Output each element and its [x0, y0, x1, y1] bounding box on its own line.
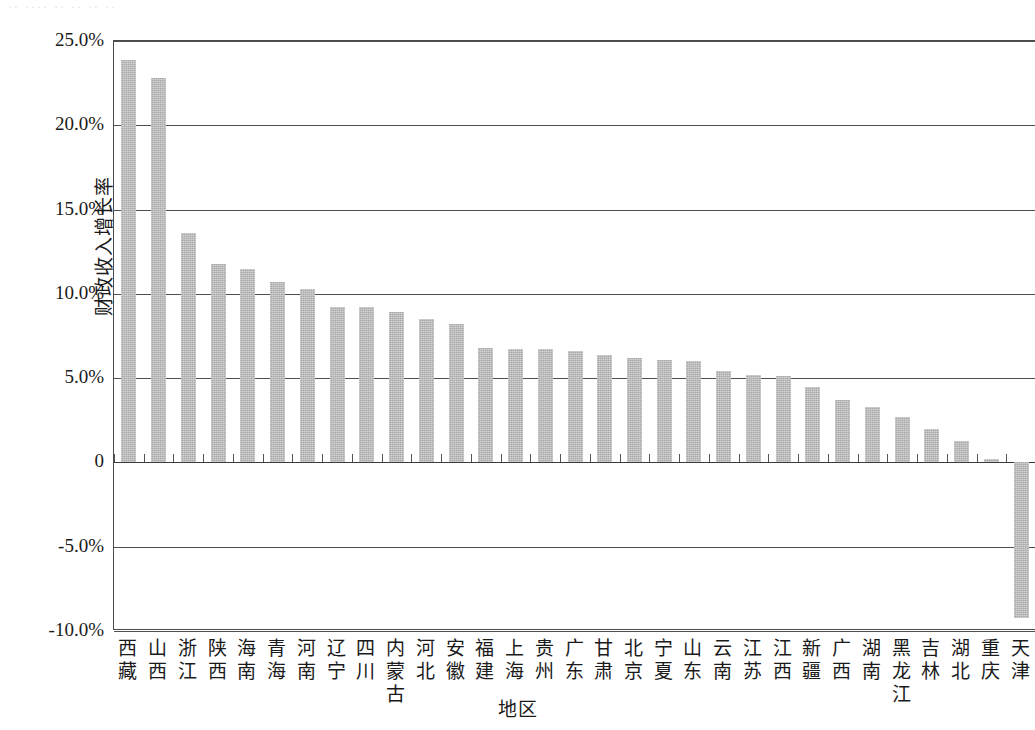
x-tick-label: 宁夏 [650, 637, 676, 683]
x-tick-label: 山东 [680, 637, 706, 683]
x-tick-label: 贵州 [531, 637, 557, 683]
x-tick-label: 辽宁 [323, 637, 349, 683]
x-tick-label: 浙江 [174, 637, 200, 683]
x-tick-label: 河北 [412, 637, 438, 683]
x-tick-label: 上海 [502, 637, 528, 683]
x-tick-label: 江苏 [739, 637, 765, 683]
x-tick-label: 重庆 [977, 637, 1003, 683]
x-tick-label: 湖北 [948, 637, 974, 683]
x-axis-title: 地区 [0, 694, 1035, 721]
x-tick-label: 天津 [1007, 637, 1033, 683]
x-tick-label: 青海 [264, 637, 290, 683]
x-tick-label: 安徽 [442, 637, 468, 683]
x-tick-label: 甘肃 [591, 637, 617, 683]
x-tick-label: 云南 [710, 637, 736, 683]
x-axis-tick-labels: 西藏山西浙江陕西海南青海河南辽宁四川内蒙古河北安徽福建上海贵州广东甘肃北京宁夏山… [0, 0, 1035, 730]
x-tick-label: 吉林 [918, 637, 944, 683]
x-tick-label: 广东 [561, 637, 587, 683]
x-tick-label: 四川 [353, 637, 379, 683]
x-tick-label: 山西 [145, 637, 171, 683]
chart-figure: ·· ···· ·· ·· ·· ·· 财政收入增长率 25.0%20.0%15… [0, 0, 1035, 730]
x-tick-label: 福建 [472, 637, 498, 683]
x-tick-label: 陕西 [204, 637, 230, 683]
x-tick-label: 海南 [234, 637, 260, 683]
x-tick-label: 湖南 [858, 637, 884, 683]
x-tick-label: 河南 [293, 637, 319, 683]
x-tick-label: 广西 [829, 637, 855, 683]
x-tick-label: 西藏 [115, 637, 141, 683]
x-tick-label: 江西 [769, 637, 795, 683]
x-tick-label: 新疆 [799, 637, 825, 683]
x-tick-label: 北京 [620, 637, 646, 683]
